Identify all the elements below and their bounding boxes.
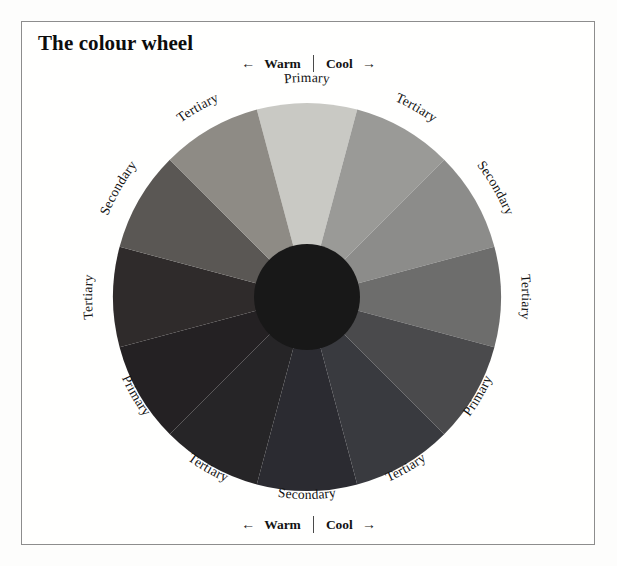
- axis-bottom-cool-label: Cool: [326, 517, 353, 533]
- wheel-label-2: Secondary: [474, 158, 517, 218]
- wheel-label-11: Tertiary: [174, 90, 221, 126]
- wheel-label-0: Primary: [283, 70, 330, 86]
- arrow-left-icon: ←: [241, 517, 255, 533]
- wheel-label-3: Tertiary: [518, 274, 534, 320]
- page-root: The colour wheel ← Warm Cool → PrimaryTe…: [0, 0, 617, 566]
- arrow-right-icon: →: [362, 517, 376, 533]
- warm-cool-axis-bottom: ← Warm Cool →: [0, 516, 617, 533]
- colour-wheel-svg: PrimaryTertiarySecondaryTertiaryPrimaryT…: [0, 0, 617, 566]
- colour-wheel: PrimaryTertiarySecondaryTertiaryPrimaryT…: [0, 0, 617, 566]
- wheel-label-10: Secondary: [97, 158, 140, 218]
- wheel-hub: [254, 244, 360, 350]
- wheel-label-1: Tertiary: [393, 90, 440, 126]
- wheel-label-9: Tertiary: [80, 274, 96, 320]
- axis-bottom-warm-label: Warm: [264, 517, 301, 533]
- wheel-label-6: Secondary: [277, 485, 337, 502]
- axis-divider: [313, 516, 314, 533]
